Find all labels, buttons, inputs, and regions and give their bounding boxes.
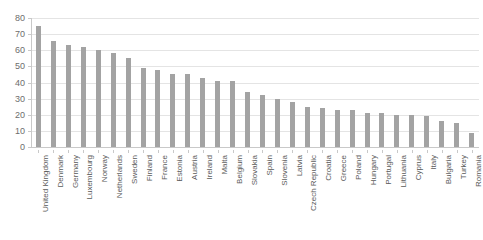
y-tick-label-60: 60 [15,46,25,55]
y-tick-label-40: 40 [15,79,25,88]
x-tick-mark [248,150,249,153]
x-label: Italy [430,155,438,170]
bar [365,113,370,147]
bar [439,121,444,147]
bar [424,116,429,147]
y-tick-label-70: 70 [15,30,25,39]
x-tick-mark [143,150,144,153]
x-tick-mark [128,150,129,153]
x-label: Germany [72,155,80,188]
bar [290,102,295,147]
bar [111,53,116,147]
x-label: Czech Republic [310,155,318,211]
x-label: Romania [475,155,483,187]
bar [36,26,41,147]
x-tick-mark [277,150,278,153]
x-tick-mark [427,150,428,153]
x-tick-mark [472,150,473,153]
x-tick-mark [337,150,338,153]
y-tick-label-50: 50 [15,62,25,71]
x-label: Slovakia [251,155,259,185]
bar [215,81,220,147]
bar [126,58,131,147]
bar [200,78,205,147]
x-tick-mark [352,150,353,153]
bar [51,41,56,147]
x-label: Hungary [370,155,378,185]
x-tick-mark [382,150,383,153]
x-tick-mark [113,150,114,153]
y-tick-label-20: 20 [15,111,25,120]
x-tick-mark [457,150,458,153]
y-tick-label-30: 30 [15,95,25,104]
y-tick-label-0: 0 [20,143,25,152]
bar [81,47,86,147]
bars-container [31,18,479,147]
bar [66,45,71,147]
x-tick-mark [68,150,69,153]
x-tick-mark [98,150,99,153]
bar [379,113,384,147]
x-tick-mark [292,150,293,153]
bar [230,81,235,147]
x-tick-mark [442,150,443,153]
x-label: Turkey [460,155,468,179]
y-tick-label-10: 10 [15,127,25,136]
x-tick-mark [262,150,263,153]
x-label: Malta [221,155,229,175]
bar [409,115,414,147]
bar [469,133,474,148]
x-tick-mark [158,150,159,153]
bar-chart: 01020304050607080 United KingdomDenmarkG… [0,0,483,240]
x-label: Portugal [385,155,393,185]
x-label: Estonia [176,155,184,182]
x-tick-mark [188,150,189,153]
x-axis-line [31,147,479,148]
bar [260,95,265,147]
x-label: Spain [266,155,274,175]
x-label: Sweden [131,155,139,184]
bar [96,50,101,147]
bar [155,70,160,147]
x-label: Lithuania [400,155,408,187]
x-label: Denmark [57,155,65,187]
x-label: Netherlands [116,155,124,198]
x-tick-mark [218,150,219,153]
x-label: Poland [355,155,363,180]
bar [170,74,175,147]
bar [454,123,459,147]
x-tick-mark [53,150,54,153]
x-tick-mark [83,150,84,153]
x-label: Cyprus [415,155,423,180]
bar [394,115,399,147]
x-tick-mark [397,150,398,153]
x-label: Croatia [325,155,333,181]
x-label: Bulgaria [445,155,453,184]
x-label: Ireland [206,155,214,179]
x-tick-mark [203,150,204,153]
x-label: Norway [101,155,109,182]
bar [350,110,355,147]
x-label: Belgium [236,155,244,184]
x-axis: United KingdomDenmarkGermanyLuxembourgNo… [31,150,479,240]
x-label: Luxembourg [86,155,94,199]
x-tick-mark [307,150,308,153]
x-tick-mark [173,150,174,153]
bar [245,92,250,147]
x-tick-mark [412,150,413,153]
x-tick-mark [367,150,368,153]
x-label: Greece [340,155,348,181]
x-tick-mark [233,150,234,153]
bar [185,74,190,147]
x-label: Austria [191,155,199,180]
x-tick-mark [322,150,323,153]
y-axis: 01020304050607080 [0,0,29,240]
bar [141,68,146,147]
x-tick-mark [38,150,39,153]
bar [335,110,340,147]
bar [275,99,280,147]
x-label: Latvia [296,155,304,176]
x-label: France [161,155,169,180]
bar [320,108,325,147]
x-label: United Kingdom [42,155,50,212]
